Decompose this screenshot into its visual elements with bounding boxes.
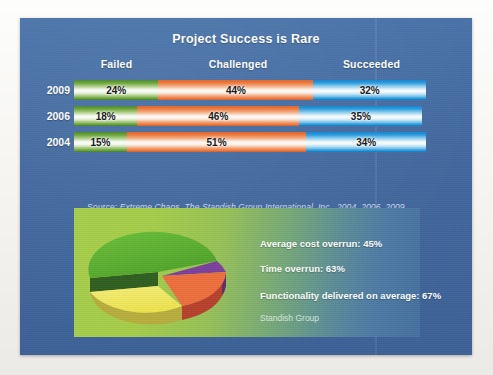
- column-header-challenged: Challenged: [159, 58, 317, 70]
- column-header-failed: Failed: [74, 58, 159, 70]
- bar-segment-succeeded-2009: 32%: [313, 80, 426, 100]
- overrun-panel: Average cost overrun: 45% Time overrun: …: [74, 208, 420, 337]
- bar-row-2004: 15% 51% 34%: [74, 132, 426, 152]
- bar-segment-challenged-2009: 44%: [158, 80, 313, 100]
- pie-caption: Standish Group: [260, 313, 319, 323]
- page-title: Project Success is Rare: [20, 32, 472, 46]
- bar-segment-failed-2009: 24%: [74, 80, 158, 100]
- slide-panel: Project Success is Rare Failed Challenge…: [20, 18, 472, 355]
- bar-segment-succeeded-2006: 35%: [299, 106, 422, 126]
- bar-row-2006: 18% 46% 35%: [74, 106, 426, 126]
- bar-value-succeeded-2006: 35%: [351, 111, 371, 122]
- bar-segment-failed-2006: 18%: [74, 106, 137, 126]
- pie-chart-3d: [78, 214, 240, 332]
- bar-value-failed-2004: 15%: [90, 137, 110, 148]
- stat-time-overrun: Time overrun: 63%: [260, 263, 345, 274]
- bar-segment-succeeded-2004: 34%: [306, 132, 426, 152]
- bar-value-challenged-2004: 51%: [207, 137, 227, 148]
- bar-segment-challenged-2004: 51%: [127, 132, 307, 152]
- stacked-bar-chart: Failed Challenged Succeeded 2009 24% 44%…: [20, 58, 472, 186]
- row-label-2006: 2006: [36, 106, 70, 126]
- bar-value-challenged-2009: 44%: [226, 85, 246, 96]
- column-header-succeeded: Succeeded: [317, 58, 426, 70]
- bar-value-failed-2009: 24%: [106, 85, 126, 96]
- row-label-2004: 2004: [36, 132, 70, 152]
- bar-segment-failed-2004: 15%: [74, 132, 127, 152]
- bar-value-succeeded-2009: 32%: [360, 85, 380, 96]
- bar-value-succeeded-2004: 34%: [356, 137, 376, 148]
- bar-row-2009: 24% 44% 32%: [74, 80, 426, 100]
- bar-value-challenged-2006: 46%: [208, 111, 228, 122]
- bar-value-failed-2006: 18%: [96, 111, 116, 122]
- stat-functionality: Functionality delivered on average: 67%: [260, 290, 441, 301]
- bar-segment-challenged-2006: 46%: [137, 106, 299, 126]
- row-label-2009: 2009: [36, 80, 70, 100]
- stat-cost-overrun: Average cost overrun: 45%: [260, 238, 382, 249]
- scan-background: Project Success is Rare Failed Challenge…: [0, 0, 493, 375]
